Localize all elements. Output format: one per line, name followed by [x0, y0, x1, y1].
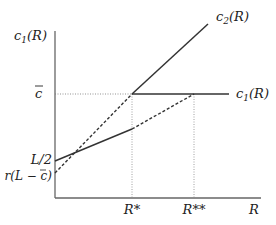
- diagram: c1(R) c L/2 r(L − c) R* R** R c2(R) c1(R…: [0, 0, 276, 225]
- r-double-star-label: R**: [182, 202, 206, 217]
- r-l-minus-c-label: r(L − c): [5, 169, 53, 183]
- c1-dashed-segment: [132, 94, 194, 129]
- c1-label: c1(R): [236, 86, 269, 103]
- l-half-label: L/2: [30, 152, 52, 167]
- c2-label: c2(R): [216, 9, 249, 26]
- r-axis-label: R: [248, 202, 259, 217]
- c-bar-label: c: [35, 86, 43, 101]
- c1-rising-segment: [55, 129, 132, 161]
- c2-curve: [132, 24, 208, 94]
- y-axis-label: c1(R): [14, 28, 47, 45]
- r-star-label: R*: [123, 202, 141, 217]
